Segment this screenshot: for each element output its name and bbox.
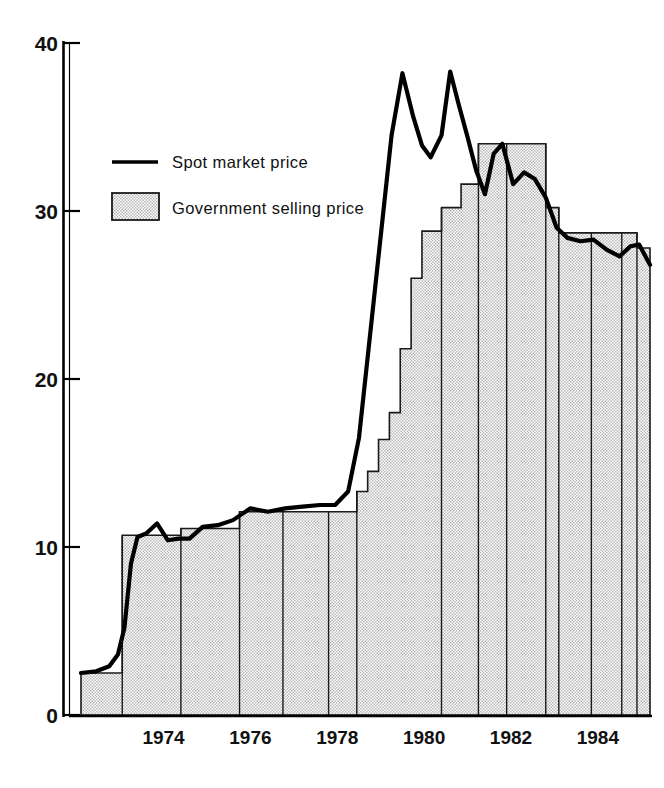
x-axis-tick-label: 1976 [229,727,271,748]
x-axis-tick-label: 1978 [316,727,358,748]
y-axis-tick-label: 10 [35,536,58,559]
x-axis-tick-label: 1984 [577,727,620,748]
legend-label-government: Government selling price [172,199,364,217]
chart-figure: 010203040 197419761978198019821984 Spot … [0,0,664,788]
y-axis-tick-label: 30 [35,200,58,223]
legend-label-spot: Spot market price [172,153,308,171]
x-axis-tick-label: 1974 [142,727,185,748]
y-axis-tick-label: 20 [35,368,58,391]
y-axis-tick-label: 40 [35,32,58,55]
chart-canvas: 010203040 197419761978198019821984 Spot … [0,0,664,788]
legend-swatch-government-rect [112,193,159,220]
x-axis-tick-label: 1980 [403,727,445,748]
figure-caption-clipped [18,772,618,786]
y-axis-tick-label: 0 [46,704,58,727]
x-axis-tick-label: 1982 [490,727,532,748]
